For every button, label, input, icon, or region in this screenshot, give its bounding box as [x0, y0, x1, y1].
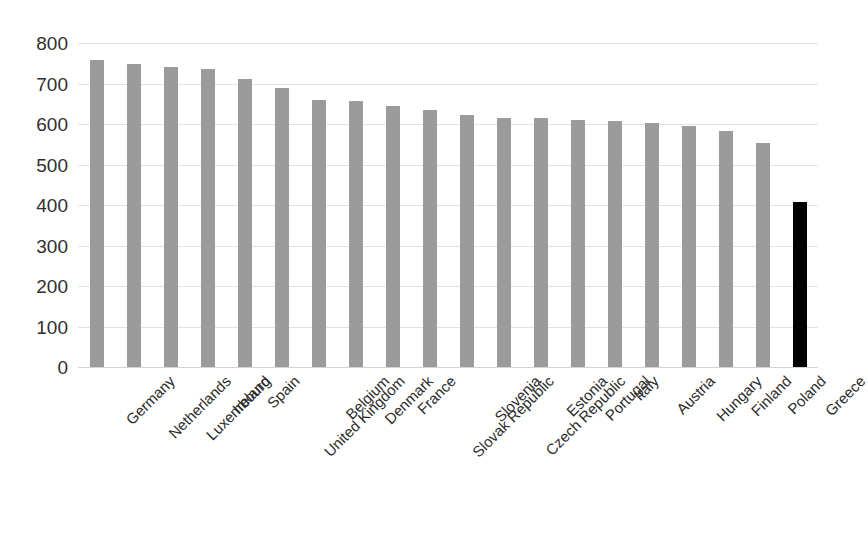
bar — [275, 88, 289, 367]
x-axis-labels: GermanyNetherlandsLuxembourgIrelandSpain… — [78, 369, 818, 529]
bar — [349, 101, 363, 367]
bar — [682, 126, 696, 367]
x-tick-label: Germany — [123, 373, 177, 427]
y-tick-label: 300 — [36, 236, 68, 255]
bar — [571, 120, 585, 367]
y-tick-label: 700 — [36, 74, 68, 93]
bar — [423, 110, 437, 367]
bar — [164, 67, 178, 367]
bar — [645, 123, 659, 367]
y-tick-label: 500 — [36, 155, 68, 174]
bar — [386, 106, 400, 367]
gridline — [78, 367, 818, 368]
y-tick-label: 0 — [57, 358, 68, 377]
bar — [719, 131, 733, 367]
bar — [312, 100, 326, 367]
x-axis-label: Ireland — [229, 373, 272, 416]
bar — [460, 115, 474, 367]
bar — [534, 118, 548, 367]
y-tick-label: 400 — [36, 196, 68, 215]
x-axis-label: Spain — [264, 373, 302, 411]
x-tick-label: Spain — [264, 373, 302, 411]
y-tick-label: 600 — [36, 115, 68, 134]
bar — [497, 118, 511, 367]
y-axis: 0100200300400500600700800 — [0, 43, 68, 367]
bar — [793, 202, 807, 367]
bar — [90, 60, 104, 367]
x-axis-label: Austria — [673, 373, 717, 417]
bar — [127, 64, 141, 367]
x-axis-label: Germany — [123, 373, 177, 427]
x-tick-label: Ireland — [229, 373, 272, 416]
x-axis-label: Greece — [822, 373, 867, 418]
x-tick-label: Greece — [822, 373, 867, 418]
bar — [201, 69, 215, 367]
bar — [238, 79, 252, 367]
bar — [608, 121, 622, 367]
bar — [756, 143, 770, 367]
y-tick-label: 200 — [36, 277, 68, 296]
y-tick-label: 100 — [36, 317, 68, 336]
bars-layer — [78, 43, 818, 367]
y-tick-label: 800 — [36, 34, 68, 53]
x-tick-label: Austria — [673, 373, 717, 417]
